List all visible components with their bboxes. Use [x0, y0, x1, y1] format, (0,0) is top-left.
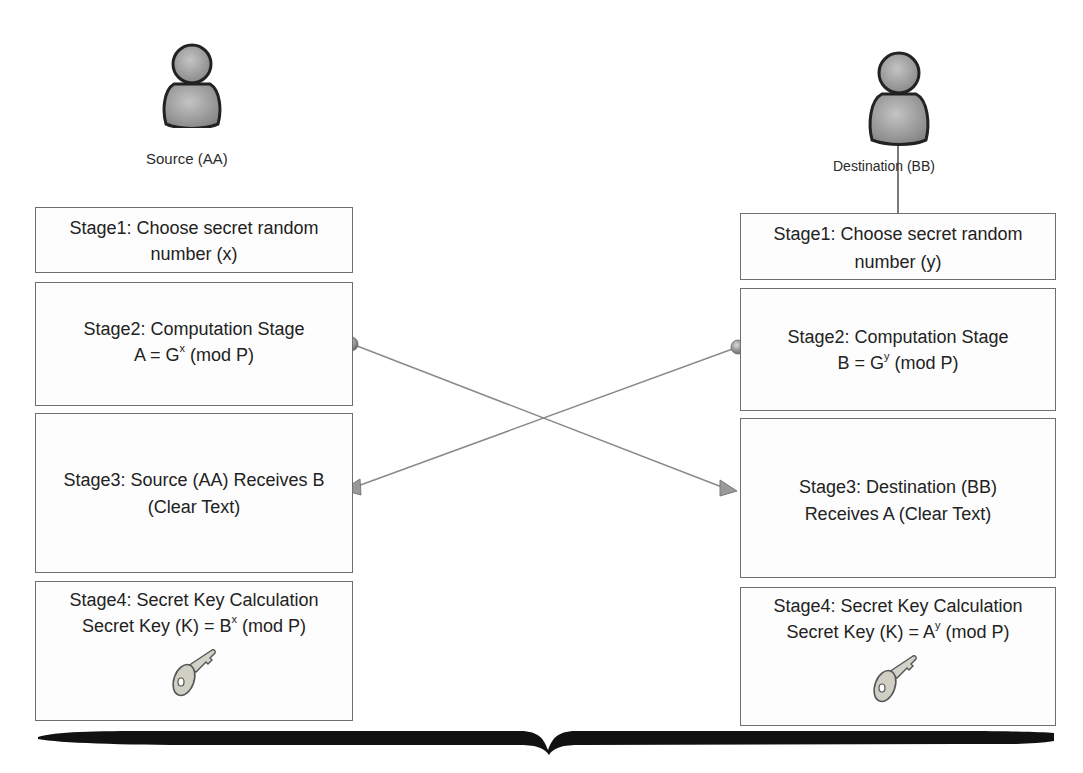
source-stage2-line1: Stage2: Computation Stage — [36, 317, 352, 341]
source-stage4-box: Stage4: Secret Key Calculation Secret Ke… — [35, 581, 353, 721]
key-icon — [867, 650, 923, 712]
arrow-b-to-source — [343, 347, 738, 495]
source-stage3-box: Stage3: Source (AA) Receives B (Clear Te… — [35, 413, 353, 573]
source-stage1-box: Stage1: Choose secret random number (x) — [35, 207, 353, 273]
key-icon — [166, 644, 222, 706]
destination-stage3-box: Stage3: Destination (BB) Receives A (Cle… — [740, 418, 1056, 578]
destination-stage2-line1: Stage2: Computation Stage — [741, 325, 1055, 349]
destination-label: Destination (BB) — [833, 158, 935, 174]
destination-stage4-formula: Secret Key (K) = Ay (mod P) — [741, 620, 1055, 644]
destination-stage1-line1: Stage1: Choose secret random — [741, 222, 1055, 246]
destination-stage2-formula: B = Gy (mod P) — [741, 351, 1055, 375]
destination-stage3-line1: Stage3: Destination (BB) — [741, 475, 1055, 499]
source-stage3-line2: (Clear Text) — [36, 495, 352, 519]
source-stage3-line1: Stage3: Source (AA) Receives B — [36, 468, 352, 492]
destination-stage4-line1: Stage4: Secret Key Calculation — [741, 594, 1055, 618]
source-stage4-formula: Secret Key (K) = Bx (mod P) — [36, 614, 352, 638]
destination-stage1-box: Stage1: Choose secret random number (y) — [740, 213, 1056, 280]
source-stage1-line1: Stage1: Choose secret random — [36, 216, 352, 240]
destination-stage3-line2: Receives A (Clear Text) — [741, 502, 1055, 526]
destination-person-icon — [866, 48, 932, 152]
source-stage1-line2: number (x) — [36, 242, 352, 266]
destination-stage2-box: Stage2: Computation Stage B = Gy (mod P) — [740, 288, 1056, 411]
arrow-a-to-destination — [352, 344, 737, 496]
bottom-brace — [38, 731, 1054, 755]
destination-stage4-box: Stage4: Secret Key Calculation Secret Ke… — [740, 587, 1056, 726]
destination-stage1-line2: number (y) — [741, 250, 1055, 274]
source-stage2-formula: A = Gx (mod P) — [36, 343, 352, 367]
source-stage4-line1: Stage4: Secret Key Calculation — [36, 588, 352, 612]
source-label: Source (AA) — [146, 150, 228, 167]
source-stage2-box: Stage2: Computation Stage A = Gx (mod P) — [35, 282, 353, 406]
source-person-icon — [160, 40, 224, 132]
